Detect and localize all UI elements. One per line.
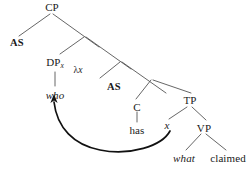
tree-branch-lines	[0, 0, 252, 169]
node-claimed: claimed	[210, 153, 246, 164]
branch-tp-vp	[192, 107, 206, 120]
node-cp: CP	[45, 2, 59, 13]
node-has: has	[130, 125, 145, 136]
lambda-variable: x	[78, 65, 82, 75]
node-vp: VP	[197, 123, 211, 134]
branch-vp-claimed	[206, 134, 226, 150]
node-what: what	[173, 153, 195, 164]
node-lambda-binder: λx	[73, 66, 82, 76]
branch-right-c	[136, 80, 151, 99]
syntax-tree-diagram: CP AS DPx λx who AS C TP has x VP what c…	[0, 0, 252, 169]
node-c: C	[133, 102, 140, 113]
node-dp-subscript: x	[61, 61, 64, 70]
node-as-left: AS	[10, 38, 24, 49]
node-dp: DPx	[46, 57, 64, 68]
node-as-mid: AS	[107, 82, 121, 93]
branch-right-tp	[153, 80, 191, 93]
movement-arrow	[50, 94, 170, 152]
node-dp-label: DP	[46, 56, 60, 68]
branch-cp-mid	[53, 14, 99, 47]
branch-vp-what	[186, 134, 201, 150]
branch-cp-as	[19, 14, 50, 36]
branch-tp-x	[169, 107, 187, 119]
branch-mid-dp	[60, 37, 84, 54]
node-tp: TP	[183, 95, 196, 106]
node-who: who	[46, 90, 65, 101]
branch-lambda-as	[100, 62, 120, 78]
branch-mid-lambda	[86, 37, 131, 69]
node-trace-x: x	[165, 120, 170, 131]
